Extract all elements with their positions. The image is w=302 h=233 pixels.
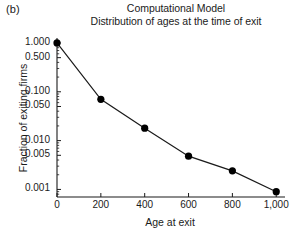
x-tick-label: 800 [224,199,241,210]
chart-title-block: Computational Model Distribution of ages… [52,2,300,28]
data-point-marker [185,153,192,160]
y-tick-label: 0.050 [6,99,50,110]
y-tick-label: 0.005 [6,148,50,159]
figure-panel-b: (b) Computational Model Distribution of … [0,0,302,233]
y-tick-label: 0.010 [6,134,50,145]
x-tick-label: 200 [93,199,110,210]
x-tick-label: 400 [136,199,153,210]
y-tick-label: 0.001 [6,182,50,193]
y-tick-label: 0.100 [6,85,50,96]
y-tick-label: 0.500 [6,51,50,62]
axes [57,38,285,197]
data-markers [53,39,279,195]
y-axis-tick-labels: 1.000 0.500 0.100 0.050 0.010 0.005 0.00… [0,0,50,233]
data-point-marker [229,167,236,174]
x-tick-label: 600 [180,199,197,210]
chart-title: Computational Model [52,2,300,15]
data-point-marker [97,96,104,103]
x-tick-label: 0 [54,199,60,210]
data-line [57,43,276,192]
data-point-marker [141,125,148,132]
x-tick-label: 1,000 [264,199,289,210]
data-point-marker [53,39,60,46]
y-tick-label: 1.000 [6,36,50,47]
x-axis-label: Age at exit [55,216,285,228]
chart-subtitle: Distribution of ages at the time of exit [52,15,300,28]
axis-ticks [57,43,276,197]
data-point-marker [273,188,280,195]
